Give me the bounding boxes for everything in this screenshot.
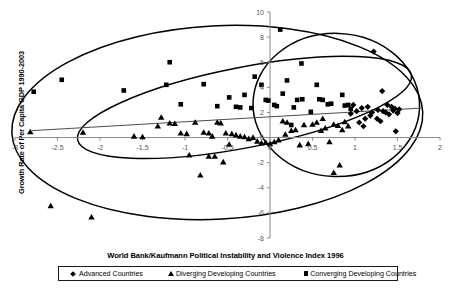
data-point-square bbox=[314, 83, 319, 88]
x-tick-label: 2 bbox=[438, 144, 442, 151]
x-tick-label: -1 bbox=[182, 144, 188, 151]
y-tick-label: -8 bbox=[258, 235, 264, 242]
data-point-square bbox=[289, 123, 294, 128]
x-tick-label: -1.5 bbox=[136, 144, 148, 151]
triangle-marker-icon bbox=[168, 271, 174, 276]
data-point-square bbox=[280, 91, 285, 96]
data-point-triangle bbox=[206, 130, 212, 136]
data-point-square bbox=[201, 82, 206, 87]
legend-label: Advanced Countries bbox=[79, 270, 143, 278]
data-point-square bbox=[234, 104, 239, 109]
data-point-triangle bbox=[326, 139, 332, 145]
data-point-diamond bbox=[379, 88, 385, 94]
data-point-square bbox=[300, 97, 305, 102]
data-point-square bbox=[242, 93, 247, 98]
data-point-square bbox=[329, 101, 334, 106]
x-tick-label: -3 bbox=[12, 144, 18, 151]
data-point-triangle bbox=[223, 130, 229, 136]
data-point-triangle bbox=[200, 129, 206, 135]
data-point-triangle bbox=[301, 122, 307, 128]
data-point-triangle bbox=[27, 129, 33, 135]
data-point-square bbox=[278, 27, 283, 32]
data-point-triangle bbox=[192, 119, 198, 125]
data-point-triangle bbox=[186, 152, 192, 158]
x-tick-label: -2 bbox=[97, 144, 103, 151]
x-tick-label: 0 bbox=[268, 144, 272, 151]
data-point-triangle bbox=[88, 214, 94, 220]
data-point-square bbox=[164, 83, 169, 88]
data-point-triangle bbox=[331, 169, 337, 175]
data-point-triangle bbox=[197, 172, 203, 178]
data-point-square bbox=[252, 74, 257, 79]
data-point-square bbox=[178, 102, 183, 107]
data-point-diamond bbox=[362, 116, 368, 122]
data-point-triangle bbox=[314, 119, 320, 125]
data-point-diamond bbox=[375, 107, 381, 113]
data-point-square bbox=[299, 61, 304, 66]
data-point-triangle bbox=[220, 159, 226, 165]
legend-item-diverging: Diverging Developing Countries bbox=[168, 270, 276, 278]
data-point-diamond bbox=[356, 119, 362, 125]
data-point-square bbox=[266, 98, 271, 103]
y-tick-label: -4 bbox=[258, 184, 264, 191]
diamond-marker-icon bbox=[70, 271, 76, 277]
data-point-triangle bbox=[47, 203, 53, 209]
legend-item-advanced: Advanced Countries bbox=[71, 270, 143, 278]
x-tick-label: -0.5 bbox=[221, 144, 233, 151]
square-marker-icon bbox=[304, 271, 309, 276]
y-tick-label: 0 bbox=[260, 134, 264, 141]
x-tick-label: 0.5 bbox=[308, 144, 318, 151]
data-point-square bbox=[215, 104, 220, 109]
data-point-square bbox=[348, 106, 353, 111]
data-point-square bbox=[238, 105, 243, 110]
y-tick-label: 2 bbox=[260, 109, 264, 116]
data-point-triangle bbox=[158, 114, 164, 120]
data-point-diamond bbox=[393, 128, 399, 134]
data-point-square bbox=[31, 89, 36, 94]
data-point-triangle bbox=[172, 121, 178, 127]
data-point-triangle bbox=[131, 133, 137, 139]
data-point-square bbox=[122, 88, 127, 93]
data-point-square bbox=[320, 98, 325, 103]
data-point-triangle bbox=[297, 142, 303, 148]
y-tick-label: 4 bbox=[260, 84, 264, 91]
scatter-chart-figure: Growth Rate of Per Capita GDP 1990-2003 … bbox=[0, 0, 451, 300]
axes bbox=[15, 12, 440, 238]
data-point-diamond bbox=[359, 105, 365, 111]
data-point-triangle bbox=[178, 130, 184, 136]
legend-label: Diverging Developing Countries bbox=[176, 270, 276, 278]
x-axis-label: World Bank/Kaufmann Political Instabilit… bbox=[0, 251, 451, 260]
data-point-triangle bbox=[241, 134, 247, 140]
y-tick-label: 10 bbox=[256, 9, 264, 16]
y-tick-label: -6 bbox=[258, 209, 264, 216]
data-point-diamond bbox=[365, 104, 371, 110]
data-point-diamond bbox=[354, 108, 360, 114]
data-point-square bbox=[309, 110, 314, 115]
data-point-square bbox=[167, 60, 172, 65]
data-point-triangle bbox=[319, 115, 325, 121]
x-tick-label: 1.5 bbox=[393, 144, 403, 151]
chart-legend: Advanced Countries Diverging Developing … bbox=[58, 266, 398, 281]
data-point-triangle bbox=[282, 131, 288, 137]
x-tick-label: 1 bbox=[353, 144, 357, 151]
x-tick-label: -2.5 bbox=[51, 144, 63, 151]
data-point-triangle bbox=[336, 162, 342, 168]
data-point-square bbox=[59, 78, 64, 83]
plot-area: -3-2.5-2-1.5-1-0.500.511.52-8-6-4-202468… bbox=[0, 0, 451, 250]
data-point-diamond bbox=[360, 123, 366, 129]
legend-item-converging: Converging Developing Countries bbox=[304, 270, 417, 278]
data-point-square bbox=[295, 98, 300, 103]
y-tick-label: 6 bbox=[260, 59, 264, 66]
data-point-triangle bbox=[139, 134, 145, 140]
y-tick-label: 8 bbox=[260, 34, 264, 41]
data-point-square bbox=[285, 78, 290, 83]
data-point-square bbox=[227, 95, 232, 100]
data-point-square bbox=[340, 93, 345, 98]
legend-label: Converging Developing Countries bbox=[310, 270, 416, 278]
data-point-square bbox=[249, 106, 254, 111]
data-point-square bbox=[272, 103, 277, 108]
data-point-triangle bbox=[183, 131, 189, 137]
data-point-square bbox=[292, 105, 297, 110]
y-tick-label: -2 bbox=[258, 159, 264, 166]
data-point-triangle bbox=[292, 127, 298, 133]
